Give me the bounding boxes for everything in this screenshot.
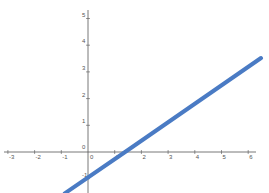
y-tick-label: 5 bbox=[82, 12, 86, 18]
y-tick-label: 1 bbox=[82, 118, 86, 124]
x-tick-label: 0 bbox=[90, 154, 94, 160]
x-tick-label: -2 bbox=[36, 154, 42, 160]
tick-labels: -3-2-10123456-1012345 bbox=[8, 12, 253, 179]
axes bbox=[4, 10, 256, 193]
line-chart: -3-2-10123456-1012345 bbox=[0, 0, 269, 193]
series-line bbox=[65, 58, 261, 193]
y-tick-label: 3 bbox=[82, 65, 86, 71]
data-series bbox=[65, 58, 261, 193]
x-tick-label: 2 bbox=[142, 154, 146, 160]
x-tick-label: 5 bbox=[223, 154, 227, 160]
y-tick-label: 0 bbox=[82, 144, 86, 150]
x-tick-label: -3 bbox=[9, 154, 15, 160]
y-tick-label: 2 bbox=[82, 92, 86, 98]
x-tick-label: -1 bbox=[62, 154, 68, 160]
y-tick-label: 4 bbox=[82, 38, 86, 44]
x-tick-label: 6 bbox=[249, 154, 253, 160]
x-tick-label: 3 bbox=[169, 154, 173, 160]
x-tick-label: 4 bbox=[196, 154, 200, 160]
